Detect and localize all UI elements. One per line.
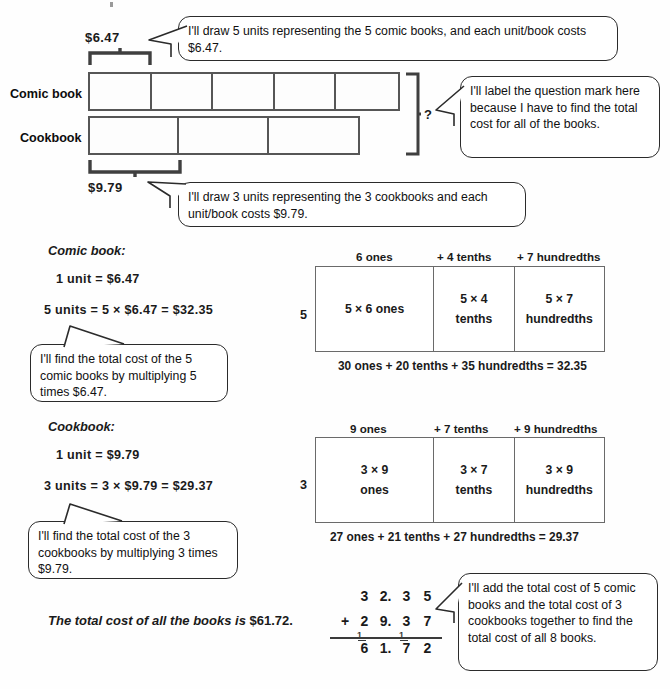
total-cost-phrase: The total cost of all the books is [48, 613, 250, 628]
addition-rule-line [330, 637, 442, 639]
callout-comic-bar-tail-icon [143, 24, 189, 58]
model-cookbook-multiplier: 3 [300, 478, 307, 492]
model-comic-cell-tenths: 5 × 4 tenths [434, 267, 515, 351]
model-comic-cell-tenths-bottom: tenths [456, 309, 493, 329]
sum-digit-4: 2 [417, 640, 438, 656]
model-cookbook-cell-ones-bottom: ones [360, 480, 388, 500]
model-comic-header-tenths: + 4 tenths [437, 250, 491, 263]
sum-digit-2: 1. [375, 640, 396, 656]
cookbook-section-title: Cookbook: [48, 419, 115, 434]
model-cookbook-cell-ones-top: 3 × 9 [361, 460, 388, 480]
callout-comic-method-tail-icon [56, 322, 126, 348]
model-comic-header-hundredths: + 7 hundredths [517, 250, 600, 263]
bar-cell-cookbook-2 [179, 118, 268, 153]
bar-cell-cookbook-1 [90, 118, 179, 153]
bar-cookbook [88, 116, 360, 155]
callout-cookbook-bar: I'll draw 3 units representing the 3 coo… [178, 182, 526, 227]
total-question-mark: ? [424, 107, 432, 122]
model-cookbook-header-tenths: + 7 tenths [434, 422, 488, 435]
sum-digit-1: 6 [354, 640, 375, 656]
addition-carry-1: 1 [357, 630, 362, 640]
cookbook-equation-1: 1 unit = $9.79 [56, 448, 140, 462]
callout-addition-method: I'll add the total cost of 5 comic books… [458, 573, 658, 671]
total-cost-statement: The total cost of all the books is $61.7… [48, 613, 293, 628]
model-comic-grid: 5 × 6 ones 5 × 4 tenths 5 × 7 hundredths [315, 266, 605, 352]
model-cookbook-header-hundredths: + 9 hundredths [514, 422, 597, 435]
addend-1-digit-2: 2. [375, 588, 396, 604]
cookbook-equation-2: 3 units = 3 × $9.79 = $29.37 [44, 479, 213, 493]
addend-2-digit-1: 2 [354, 613, 375, 629]
bar-cell-comic-1 [90, 74, 152, 109]
model-comic-cell-hundredths-bottom: hundredths [526, 309, 593, 329]
model-comic-cell-ones-top: 5 × 6 ones [345, 299, 404, 319]
addition-operator: + [336, 613, 354, 629]
bar-label-cookbook: Cookbook [20, 131, 82, 145]
callout-comic-bar: I'll draw 5 units representing the 5 com… [178, 16, 618, 61]
model-comic-cell-hundredths: 5 × 7 hundredths [515, 267, 604, 351]
callout-comic-method: I'll find the total cost of the 5 comic … [30, 344, 228, 402]
bar-cell-cookbook-3 [269, 118, 358, 153]
comic-equation-1: 1 unit = $6.47 [56, 272, 140, 286]
comic-unit-price-label: $6.47 [85, 30, 120, 45]
model-comic-cell-hundredths-top: 5 × 7 [546, 289, 573, 309]
bar-comic-book [88, 72, 400, 111]
addend-2-digit-2: 9. [375, 613, 396, 629]
model-cookbook-header-ones: 9 ones [350, 422, 387, 435]
cookbook-unit-price-label: $9.79 [88, 180, 123, 195]
bar-cell-comic-2 [152, 74, 214, 109]
comic-equation-2: 5 units = 5 × $6.47 = $32.35 [44, 303, 213, 317]
callout-cookbook-bar-tail-icon [144, 180, 188, 210]
model-cookbook-cell-tenths: 3 × 7 tenths [434, 438, 515, 522]
model-cookbook-grid: 3 × 9 ones 3 × 7 tenths 3 × 9 hundredths [315, 437, 605, 523]
comic-section-title: Comic book: [48, 243, 126, 258]
model-cookbook-footer: 27 ones + 21 tenths + 27 hundredths = 29… [330, 530, 579, 544]
bar-cell-comic-5 [336, 74, 398, 109]
callout-addition-tail-icon [432, 581, 464, 625]
addition-sum: 61.72 [336, 640, 438, 656]
cookbook-unit-bracket-icon [88, 158, 184, 178]
callout-question-mark: I'll label the question mark here becaus… [460, 76, 660, 158]
addition-carry-2: 1 [399, 630, 404, 640]
model-comic-cell-tenths-top: 5 × 4 [460, 289, 487, 309]
addition-addend-1: 32.35 [336, 588, 438, 604]
callout-question-tail-icon [432, 84, 466, 128]
model-comic-multiplier: 5 [300, 308, 307, 322]
total-bracket-icon [404, 72, 422, 156]
addition-addend-2: +29.37 [336, 613, 438, 629]
model-cookbook-cell-hundredths: 3 × 9 hundredths [515, 438, 604, 522]
model-cookbook-cell-hundredths-top: 3 × 9 [546, 460, 573, 480]
addend-1-digit-1: 3 [354, 588, 375, 604]
addend-2-digit-3: 3 [396, 613, 417, 629]
model-cookbook-cell-tenths-top: 3 × 7 [460, 460, 487, 480]
model-cookbook-cell-tenths-bottom: tenths [456, 480, 493, 500]
bar-cell-comic-3 [213, 74, 275, 109]
addend-1-digit-3: 3 [396, 588, 417, 604]
model-cookbook-cell-ones: 3 × 9 ones [316, 438, 434, 522]
model-comic-cell-ones: 5 × 6 ones [316, 267, 434, 351]
model-cookbook-cell-hundredths-bottom: hundredths [526, 480, 593, 500]
bar-label-comic-book: Comic book [10, 87, 82, 101]
page-artifact-mark [110, 2, 113, 7]
worksheet-page: $6.47 I'll draw 5 units representing the… [0, 0, 670, 689]
bar-cell-comic-4 [275, 74, 337, 109]
callout-cookbook-method: I'll find the total cost of the 3 cookbo… [28, 521, 238, 579]
model-comic-header-ones: 6 ones [356, 250, 393, 263]
sum-digit-3: 7 [396, 640, 417, 656]
model-comic-footer: 30 ones + 20 tenths + 35 hundredths = 32… [338, 359, 587, 373]
callout-cookbook-method-tail-icon [56, 500, 126, 525]
total-cost-value: $61.72. [250, 613, 293, 628]
